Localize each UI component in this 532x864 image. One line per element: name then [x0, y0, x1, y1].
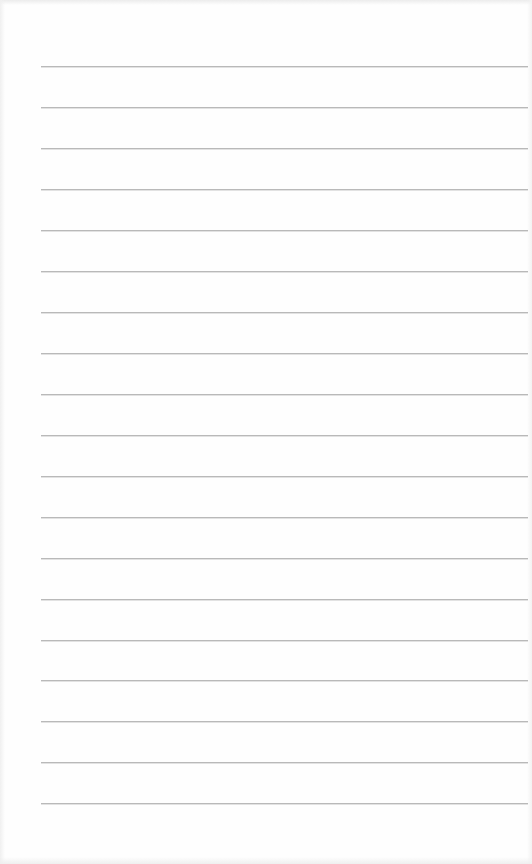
- ruled-line: [41, 517, 528, 519]
- ruled-line: [41, 476, 528, 478]
- ruled-line: [41, 107, 528, 109]
- ruled-line: [41, 435, 528, 437]
- ruled-line: [41, 148, 528, 150]
- ruled-line: [41, 353, 528, 355]
- ruled-line: [41, 762, 528, 764]
- ruled-line: [41, 230, 528, 232]
- ruled-line: [41, 394, 528, 396]
- ruled-line: [41, 271, 528, 273]
- ruled-line: [41, 640, 528, 642]
- ruled-line: [41, 189, 528, 191]
- ruled-line: [41, 680, 528, 682]
- ruled-line: [41, 558, 528, 560]
- ruled-line: [41, 312, 528, 314]
- ruled-line: [41, 66, 528, 68]
- ruled-line: [41, 721, 528, 723]
- ruled-lines: [0, 0, 532, 864]
- ruled-line: [41, 803, 528, 805]
- ruled-line: [41, 599, 528, 601]
- notepad-page: [0, 0, 532, 864]
